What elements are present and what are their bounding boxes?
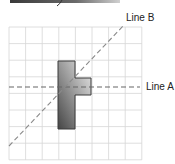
line-a-label: Line A (146, 81, 174, 92)
top-fragment (10, 0, 120, 6)
t-shape (58, 61, 91, 129)
line-b-label: Line B (126, 12, 155, 23)
reflection-diagram: Line A Line B (0, 0, 175, 164)
